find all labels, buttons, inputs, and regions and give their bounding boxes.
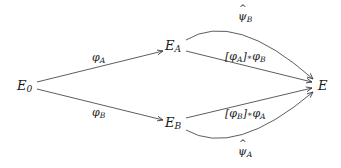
label-phiB-star-phiA: [φB]∗φA bbox=[225, 108, 266, 121]
label-phiB: φB bbox=[92, 107, 105, 120]
label-psiA: ψA bbox=[238, 146, 252, 159]
node-EA: EA bbox=[165, 39, 181, 54]
label-psiB: ψB bbox=[238, 11, 252, 24]
label-phiA: φA bbox=[92, 52, 105, 65]
node-EB: EB bbox=[165, 116, 181, 131]
label-phiA-star-phiB: [φA]∗φB bbox=[225, 51, 266, 64]
node-E: E bbox=[318, 79, 328, 92]
diagram-arrows bbox=[0, 0, 341, 168]
node-E0: E0 bbox=[17, 79, 32, 94]
